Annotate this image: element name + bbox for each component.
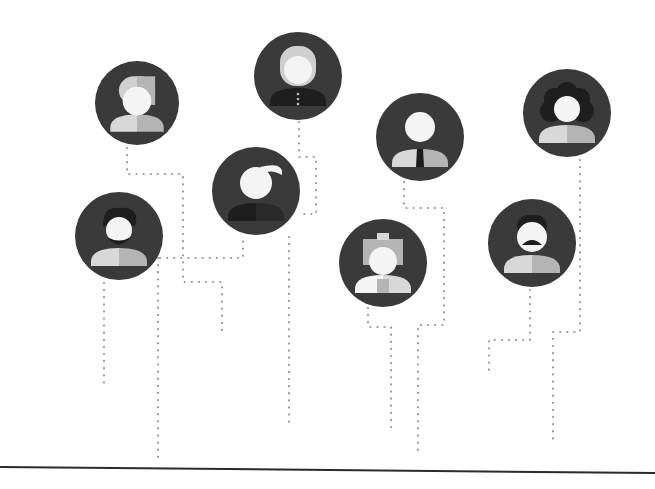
avatar-woman-short-hair-icon	[95, 61, 179, 145]
dotted-connectors	[104, 122, 580, 463]
avatar-man-tie-icon	[376, 93, 464, 181]
avatar-man-beard-icon	[75, 192, 163, 280]
avatar-group	[75, 32, 611, 307]
dotted-connector-line	[368, 308, 391, 433]
dotted-connector-line	[489, 290, 530, 373]
avatar-network-illustration	[0, 0, 655, 489]
avatar-man-quiff-icon	[212, 147, 300, 235]
avatar-girl-bow-icon	[339, 219, 427, 307]
baseline-divider	[0, 467, 655, 473]
avatar-woman-long-hair-icon	[254, 32, 342, 120]
illustration-canvas	[0, 0, 655, 489]
dotted-connector-line	[553, 160, 580, 441]
dotted-connector-line	[160, 235, 243, 258]
dotted-connector-line	[404, 182, 444, 450]
avatar-woman-mustache-icon	[488, 199, 576, 287]
dotted-connector-line	[299, 122, 316, 214]
avatar-woman-curly-hair-icon	[523, 69, 611, 157]
